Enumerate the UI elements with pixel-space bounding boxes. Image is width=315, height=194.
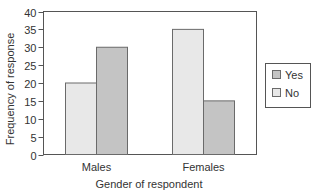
bars xyxy=(66,29,235,154)
y-tick-label: 10 xyxy=(24,114,36,126)
x-tick-label: Males xyxy=(82,161,112,173)
bar-group-males xyxy=(66,47,128,154)
x-tick-label: Females xyxy=(182,161,225,173)
y-tick-label: 0 xyxy=(30,150,36,162)
bar-males-yes xyxy=(97,47,128,154)
y-tick-label: 25 xyxy=(24,60,36,72)
bar-females-no xyxy=(173,29,204,154)
legend-swatch-yes xyxy=(273,71,281,79)
bar-group-females xyxy=(173,29,235,154)
y-tick-label: 30 xyxy=(24,42,36,54)
legend: YesNo xyxy=(266,64,311,108)
legend-label-yes: Yes xyxy=(285,69,303,81)
legend-swatch-no xyxy=(273,89,281,97)
bar-males-no xyxy=(66,83,97,155)
y-axis-label: Frequency of response xyxy=(4,33,16,146)
y-tick-label: 15 xyxy=(24,96,36,108)
y-tick-label: 35 xyxy=(24,24,36,36)
y-axis: 0510152025303540 xyxy=(24,7,43,162)
legend-label-no: No xyxy=(285,87,299,99)
x-axis-label: Gender of respondent xyxy=(95,178,202,190)
bar-chart: 0510152025303540 MalesFemales Frequency … xyxy=(0,0,315,194)
y-tick-label: 20 xyxy=(24,78,36,90)
bar-females-yes xyxy=(204,101,235,155)
x-axis: MalesFemales xyxy=(82,161,225,173)
y-tick-label: 40 xyxy=(24,7,36,19)
y-tick-label: 5 xyxy=(30,132,36,144)
